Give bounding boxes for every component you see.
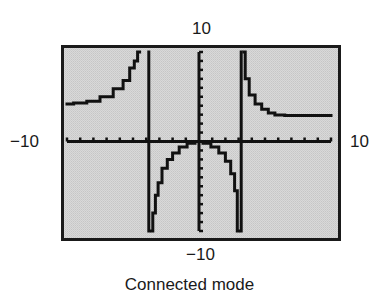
calculator-graph-screen [61,45,341,241]
xmax-label: 10 [350,133,369,150]
function-plot [61,45,341,241]
figure-caption: Connected mode [0,276,379,293]
ymin-label: −10 [186,246,215,263]
ymax-label: 10 [192,20,211,37]
xmin-label: −10 [10,133,39,150]
